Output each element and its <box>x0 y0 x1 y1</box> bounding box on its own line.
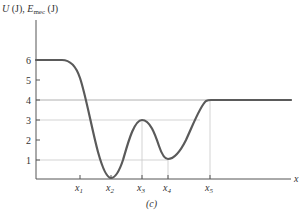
x-axis-label: x <box>293 173 299 184</box>
x-tick-label-x5: x5 <box>204 182 213 195</box>
energy-chart: 1 2 3 4 5 6 x1 x2 x3 x4 x5 x U (J), Emec… <box>0 0 302 214</box>
y-tick-label: 6 <box>26 55 31 66</box>
x-ticks <box>80 175 210 179</box>
y-tick-label: 2 <box>26 135 31 146</box>
x-tick-label-x2: x2 <box>105 182 114 195</box>
x-tick-label-x1: x1 <box>74 182 83 195</box>
y-tick-label: 1 <box>26 155 31 166</box>
y-tick-label: 4 <box>26 95 31 106</box>
y-ticks <box>36 60 40 160</box>
x-tick-label-x3: x3 <box>136 182 145 195</box>
x-tick-label-x4: x4 <box>162 182 171 195</box>
y-tick-label: 5 <box>26 75 31 86</box>
y-axis-label: U (J), Emec (J) <box>2 3 58 16</box>
y-tick-label: 3 <box>26 115 31 126</box>
figure-caption: (c) <box>146 198 158 210</box>
